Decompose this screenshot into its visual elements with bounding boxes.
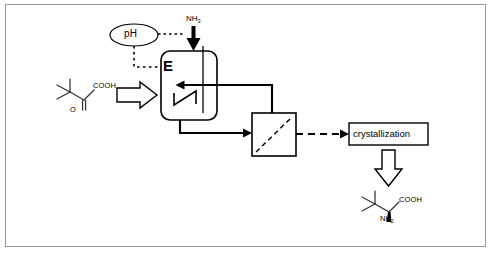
permeate-arrowhead	[340, 130, 349, 139]
product-amine-text: NH	[380, 214, 391, 223]
ammonia-feed-arrow	[187, 26, 201, 51]
reactor-outlet-arrowhead	[243, 129, 252, 138]
ph-sensor-label: pH	[124, 29, 137, 39]
substrate-feed-arrow	[117, 82, 157, 108]
product-structure	[362, 191, 399, 212]
substrate-ketone-label: O	[70, 106, 76, 114]
crystallization-label: crystallization	[353, 129, 410, 139]
reactor-outlet-line	[180, 120, 243, 133]
diagram-canvas: pH NH3 E crystallization COOH O COOH NH2	[0, 0, 492, 256]
diagram-graphics	[0, 0, 492, 256]
product-cooh-label: COOH	[399, 196, 422, 204]
ammonia-feed-label: NH3	[186, 15, 201, 23]
reactor-label: E	[163, 58, 173, 73]
product-outlet-arrow	[375, 150, 402, 186]
product-amine-subscript: 2	[391, 218, 394, 224]
product-amine-label: NH2	[380, 215, 394, 223]
substrate-cooh-label: COOH	[93, 82, 116, 90]
ammonia-feed-subscript: 3	[198, 18, 201, 24]
ammonia-feed-text: NH	[186, 14, 198, 23]
